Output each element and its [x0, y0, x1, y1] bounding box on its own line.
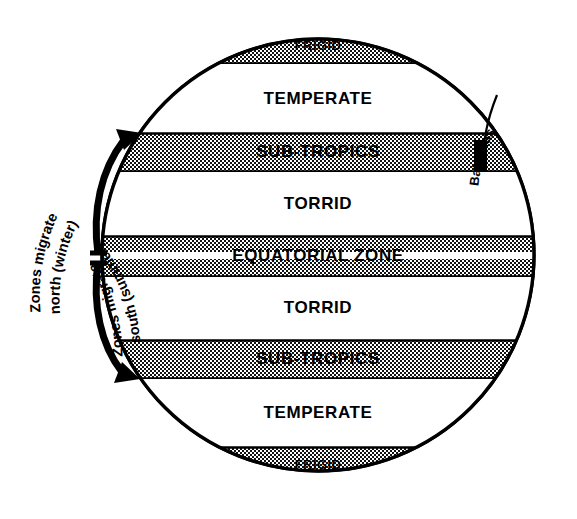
label-torrid-north: TORRID	[284, 194, 352, 213]
label-torrid-south: TORRID	[284, 298, 352, 317]
globe-group: FRIGID TEMPERATE SUB-TROPICS TORRID EQUA…	[90, 30, 550, 483]
diagram-canvas: FRIGID TEMPERATE SUB-TROPICS TORRID EQUA…	[0, 0, 577, 519]
climate-zones-diagram: FRIGID TEMPERATE SUB-TROPICS TORRID EQUA…	[0, 0, 577, 519]
label-frigid-south: FRIGID	[295, 457, 341, 472]
label-frigid-north: FRIGID	[295, 38, 341, 53]
label-temperate-south: TEMPERATE	[264, 403, 373, 422]
label-subtropics-south: SUB-TROPICS	[256, 349, 380, 368]
label-subtropics-north: SUB-TROPICS	[256, 142, 380, 161]
label-temperate-north: TEMPERATE	[264, 89, 373, 108]
label-equatorial-zone: EQUATORIAL ZONE	[232, 246, 403, 265]
